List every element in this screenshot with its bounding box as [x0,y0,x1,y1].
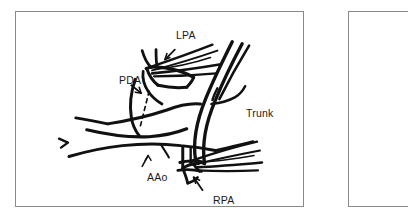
aorta-left-chevron [59,139,68,148]
label-rpa: RPA [213,195,234,206]
rpa-stump [178,148,205,184]
pda-dashed-duct [140,91,149,127]
label-arrow-rpa [194,177,203,190]
label-leader-aao [142,156,151,167]
trunk-branch-upper [219,46,249,99]
label-trunk: Trunk [246,108,273,119]
label-pda: PDA [119,75,141,86]
ascending-aorta [69,129,253,158]
label-aao: AAo [147,172,167,183]
adjacent-figure-frame-partial [348,11,408,207]
label-lpa: LPA [176,30,196,41]
left-vessel-upper-edge-tail [76,118,108,124]
left-vessel-upper-edge [108,104,201,124]
figure-frame: LPA PDA Trunk AAo RPA [15,11,304,207]
